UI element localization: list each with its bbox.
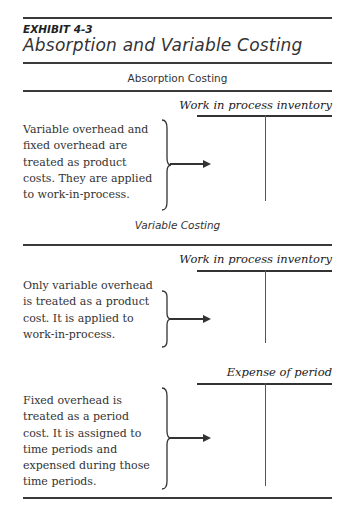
bottom-rule <box>23 497 332 499</box>
right-arrow-icon <box>170 315 212 323</box>
t-account-divider <box>265 270 266 343</box>
variable-rule <box>23 244 332 246</box>
right-arrow-icon <box>170 434 212 442</box>
cost-description: Variable overhead and fixed overhead are… <box>23 122 158 203</box>
t-account-divider <box>265 383 266 486</box>
section-heading-variable: Variable Costing <box>23 219 332 231</box>
title-rule <box>23 62 332 64</box>
t-account-title: Expense of period <box>227 365 332 379</box>
t-account-title: Work in process inventory <box>179 98 332 112</box>
absorption-rule <box>23 90 332 92</box>
t-account-divider <box>265 115 266 201</box>
right-arrow-icon <box>170 160 212 168</box>
section-heading-absorption: Absorption Costing <box>23 72 332 84</box>
t-account-title: Work in process inventory <box>179 252 332 266</box>
top-rule <box>23 17 332 19</box>
exhibit-title: Absorption and Variable Costing <box>23 35 303 55</box>
exhibit-label: EXHIBIT 4-3 <box>23 23 93 35</box>
cost-description: Fixed overhead is treated as a period co… <box>23 393 158 491</box>
cost-description: Only variable overhead is treated as a p… <box>23 278 158 343</box>
